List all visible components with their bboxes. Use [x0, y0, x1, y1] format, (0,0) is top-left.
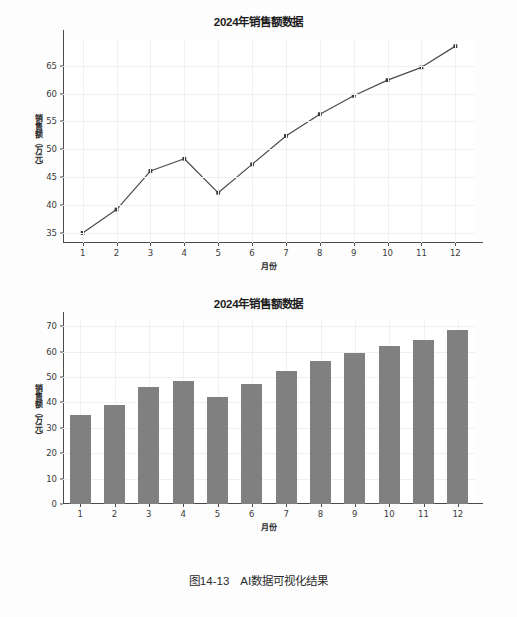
line-chart-x-tick-mark — [150, 243, 151, 246]
bar-chart-x-tick-label: 5 — [215, 509, 220, 519]
bar-chart-x-tick-mark — [321, 504, 322, 507]
line-chart-x-tick-mark — [218, 243, 219, 246]
line-chart-x-tick-mark — [83, 243, 84, 246]
line-chart-gridline-v — [455, 40, 456, 243]
bar-chart-y-tick-mark — [60, 478, 63, 479]
line-chart-y-tick-label: 45 — [46, 172, 57, 182]
line-chart-y-tick-label: 50 — [46, 144, 57, 154]
bar-chart-y-tick-label: 40 — [46, 397, 57, 407]
bar-chart-bar — [241, 384, 262, 504]
document-page: 2024年销售额数据 月份 销售额（万元） 354045505560651234… — [0, 0, 517, 617]
line-chart-y-tick-mark — [60, 205, 63, 206]
bar-chart-x-tick-label: 8 — [318, 509, 323, 519]
bar-chart-y-axis — [63, 312, 64, 504]
bar-chart-y-tick-mark — [60, 402, 63, 403]
line-chart-gridline-h — [63, 121, 475, 122]
line-chart-y-tick-mark — [60, 177, 63, 178]
bar-chart-x-tick-mark — [286, 504, 287, 507]
bar-chart-x-axis-label: 月份 — [261, 521, 277, 532]
line-chart-x-tick-mark — [320, 243, 321, 246]
bar-chart-bar — [276, 371, 297, 504]
bar-chart-bar — [447, 330, 468, 504]
bar-chart-x-tick-mark — [424, 504, 425, 507]
line-chart-x-tick-mark — [388, 243, 389, 246]
line-chart-x-tick-mark — [421, 243, 422, 246]
line-chart-series — [63, 40, 475, 243]
line-chart-x-tick-mark — [286, 243, 287, 246]
line-chart-gridline-h — [63, 66, 475, 67]
line-chart-gridline-h — [63, 233, 475, 234]
line-chart-y-tick-mark — [60, 149, 63, 150]
line-chart-x-tick-label: 7 — [283, 248, 288, 258]
bar-chart-bar — [138, 387, 159, 504]
line-chart-y-tick-label: 60 — [46, 89, 57, 99]
bar-chart-plot-wrap: 月份 销售额（万元） 01020304050607012345678910111… — [0, 312, 517, 537]
bar-chart-bar — [379, 346, 400, 504]
line-chart-gridline-v — [354, 40, 355, 243]
line-chart-x-tick-label: 3 — [148, 248, 153, 258]
line-chart-y-tick-label: 40 — [46, 200, 57, 210]
line-chart-gridline-h — [63, 149, 475, 150]
line-chart-gridline-v — [184, 40, 185, 243]
bar-chart-x-tick-label: 4 — [180, 509, 185, 519]
bar-chart-x-tick-label: 9 — [352, 509, 357, 519]
line-chart-x-tick-label: 6 — [249, 248, 254, 258]
line-chart-x-tick-label: 2 — [114, 248, 119, 258]
bar-chart-y-tick-mark — [60, 326, 63, 327]
line-chart-plot-wrap: 月份 销售额（万元） 35404550556065123456789101112 — [0, 30, 517, 280]
line-chart-x-tick-mark — [184, 243, 185, 246]
line-chart-x-tick-label: 12 — [450, 248, 461, 258]
line-chart-gridline-v — [421, 40, 422, 243]
line-chart-title: 2024年销售额数据 — [0, 14, 517, 30]
bar-chart-y-tick-label: 20 — [46, 448, 57, 458]
bar-chart-x-tick-mark — [218, 504, 219, 507]
bar-chart-y-tick-label: 50 — [46, 372, 57, 382]
line-chart-y-tick-mark — [60, 232, 63, 233]
line-chart-figure: 2024年销售额数据 月份 销售额（万元） 354045505560651234… — [0, 14, 517, 302]
bar-chart-bar — [344, 353, 365, 504]
bar-chart-y-tick-mark — [60, 377, 63, 378]
line-chart-gridline-v — [286, 40, 287, 243]
bar-chart-bar — [173, 381, 194, 504]
bar-chart-x-tick-mark — [458, 504, 459, 507]
bar-chart-figure: 2024年销售额数据 月份 销售额（万元） 010203040506070123… — [0, 296, 517, 558]
line-chart-x-tick-label: 9 — [351, 248, 356, 258]
bar-chart-x-tick-mark — [149, 504, 150, 507]
bar-chart-plot-area: 月份 销售额（万元） 01020304050607012345678910111… — [63, 320, 475, 504]
bar-chart-bar — [104, 405, 125, 504]
bar-chart-x-tick-label: 7 — [283, 509, 288, 519]
line-chart-gridline-v — [218, 40, 219, 243]
bar-chart-y-axis-label: 销售额（万元） — [33, 384, 41, 440]
bar-chart-x-tick-label: 10 — [384, 509, 395, 519]
line-chart-gridline-v — [117, 40, 118, 243]
bar-chart-x-tick-label: 2 — [112, 509, 117, 519]
line-chart-x-tick-mark — [354, 243, 355, 246]
bar-chart-bar — [207, 397, 228, 504]
bar-chart-x-tick-mark — [115, 504, 116, 507]
line-chart-x-tick-label: 1 — [80, 248, 85, 258]
line-chart-gridline-h — [63, 205, 475, 206]
line-chart-gridline-v — [252, 40, 253, 243]
line-chart-gridline-h — [63, 177, 475, 178]
bar-chart-gridline-h — [63, 326, 475, 327]
line-chart-x-tick-mark — [117, 243, 118, 246]
line-chart-gridline-h — [63, 94, 475, 95]
bar-chart-y-tick-mark — [60, 453, 63, 454]
line-chart-x-tick-label: 8 — [317, 248, 322, 258]
line-chart-x-axis-label: 月份 — [261, 260, 277, 271]
bar-chart-y-tick-label: 0 — [52, 499, 57, 509]
bar-chart-y-tick-label: 70 — [46, 321, 57, 331]
bar-chart-x-tick-label: 12 — [452, 509, 463, 519]
bar-chart-x-tick-label: 1 — [77, 509, 82, 519]
line-chart-x-tick-label: 4 — [182, 248, 187, 258]
figure-caption: 图14-13 AI数据可视化结果 — [0, 572, 517, 588]
line-chart-y-tick-label: 35 — [46, 228, 57, 238]
bar-chart-y-tick-mark — [60, 427, 63, 428]
bar-chart-bar — [70, 415, 91, 504]
bar-chart-y-tick-mark — [60, 351, 63, 352]
bar-chart-y-tick-label: 60 — [46, 347, 57, 357]
bar-chart-x-tick-mark — [80, 504, 81, 507]
line-chart-y-tick-label: 65 — [46, 61, 57, 71]
line-chart-y-tick-label: 55 — [46, 116, 57, 126]
line-chart-x-tick-mark — [252, 243, 253, 246]
